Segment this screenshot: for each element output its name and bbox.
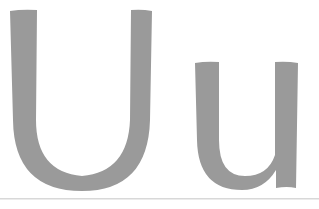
lowercase-u-glyph <box>195 62 298 190</box>
baseline-rule <box>0 198 319 200</box>
specimen-canvas <box>0 0 319 209</box>
uppercase-u-glyph <box>10 10 152 191</box>
